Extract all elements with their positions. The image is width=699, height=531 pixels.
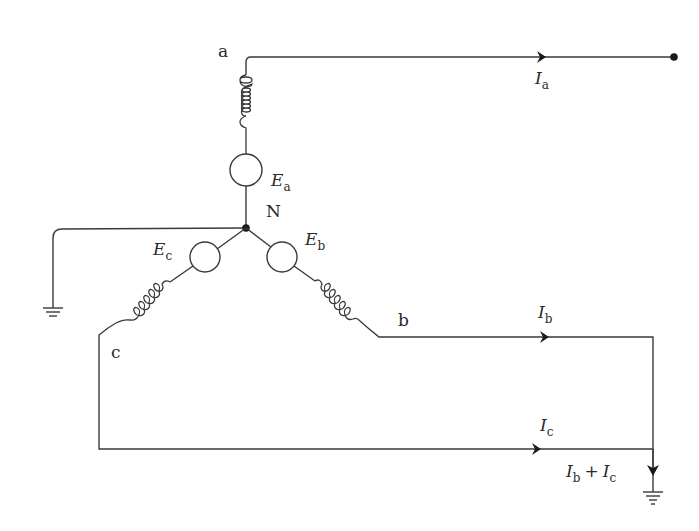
node-label-c: c	[111, 342, 121, 362]
current-label-ia: Ia	[534, 68, 549, 92]
inductor-a	[240, 75, 252, 154]
node-label-n: N	[266, 201, 281, 221]
phase-a-terminal	[670, 53, 678, 61]
neutral-ground-wire	[53, 228, 246, 308]
ground-icon	[643, 492, 663, 504]
current-label-ib: Ib	[537, 302, 553, 326]
inductor-b	[315, 280, 368, 328]
source-label-ec: Ec	[152, 239, 172, 263]
source-ea	[230, 154, 262, 186]
phase-c-line	[99, 328, 653, 449]
source-label-ea: Ea	[270, 170, 291, 194]
circuit-diagram: a N b c Ea Eb Ec Ia Ib Ic Ib+Ic	[0, 0, 699, 531]
phase-a-line	[246, 57, 674, 75]
node-label-a: a	[218, 41, 228, 61]
phase-b-branch	[246, 228, 653, 470]
ground-icon	[43, 308, 63, 316]
node-label-b: b	[398, 310, 409, 330]
current-label-isum: Ib+Ic	[565, 461, 616, 485]
return-ground-branch	[643, 449, 663, 504]
source-eb	[267, 242, 297, 272]
inductor-c	[108, 281, 170, 328]
current-label-ic: Ic	[539, 415, 554, 439]
source-label-eb: Eb	[304, 229, 325, 253]
phase-a-branch	[230, 51, 678, 228]
source-ec	[190, 242, 220, 272]
phase-c-branch	[99, 228, 653, 455]
